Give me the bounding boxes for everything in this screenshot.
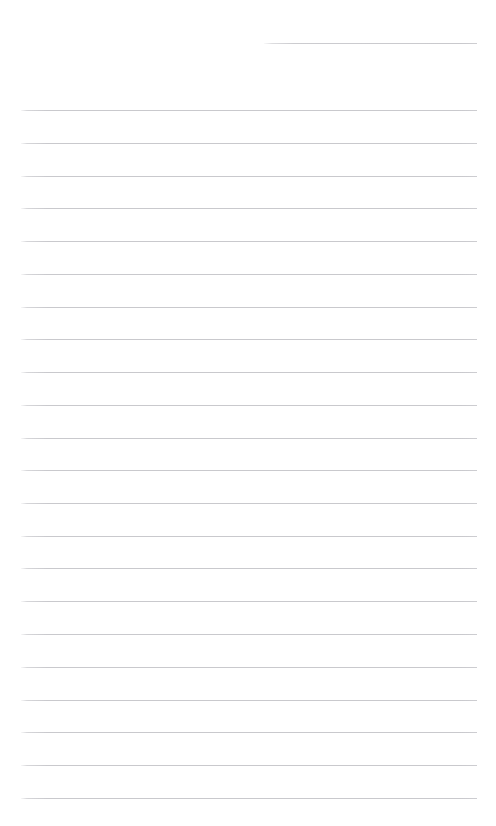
writing-area[interactable] — [0, 0, 496, 826]
writing-rule[interactable] — [21, 503, 477, 504]
writing-rule[interactable] — [21, 405, 477, 406]
writing-rule[interactable] — [21, 339, 477, 340]
writing-rule[interactable] — [21, 372, 477, 373]
writing-rule[interactable] — [21, 536, 477, 537]
writing-rule[interactable] — [21, 732, 477, 733]
writing-rule[interactable] — [21, 798, 477, 799]
writing-rule[interactable] — [21, 667, 477, 668]
writing-rule[interactable] — [21, 110, 477, 111]
ruled-page — [0, 0, 496, 826]
writing-rule[interactable] — [21, 274, 477, 275]
writing-rule[interactable] — [21, 700, 477, 701]
writing-rule[interactable] — [21, 208, 477, 209]
writing-rule[interactable] — [21, 634, 477, 635]
writing-rule[interactable] — [21, 241, 477, 242]
writing-rule[interactable] — [21, 568, 477, 569]
writing-rule[interactable] — [21, 601, 477, 602]
writing-rule[interactable] — [21, 143, 477, 144]
writing-rule[interactable] — [21, 470, 477, 471]
writing-rule[interactable] — [21, 176, 477, 177]
writing-rule[interactable] — [21, 307, 477, 308]
writing-rule[interactable] — [21, 765, 477, 766]
writing-rule[interactable] — [21, 438, 477, 439]
